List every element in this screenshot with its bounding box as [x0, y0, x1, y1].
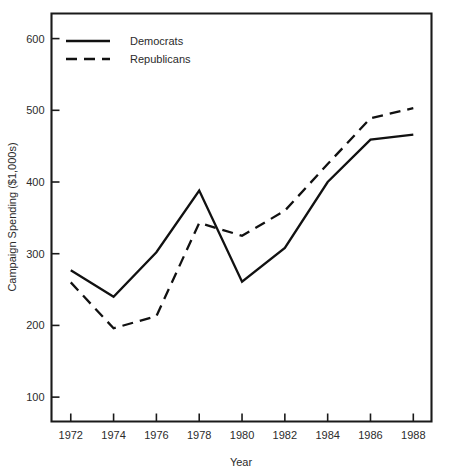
y-tick-label: 100: [26, 391, 44, 403]
y-axis-title: Campaign Spending ($1,000s): [6, 142, 18, 291]
x-tick-label: 1974: [101, 429, 125, 441]
plot-frame: [52, 14, 432, 422]
y-axis-ticks: 600500400300200100: [26, 33, 59, 404]
series-line-republicans: [71, 108, 414, 328]
x-axis-ticks: 197219741976197819801982198419861988: [59, 414, 426, 441]
x-axis-title: Year: [230, 456, 253, 468]
chart-legend: DemocratsRepublicans: [66, 35, 191, 65]
y-tick-label: 300: [26, 248, 44, 260]
chart-container: 600500400300200100 197219741976197819801…: [0, 0, 452, 475]
series-line-democrats: [71, 135, 414, 297]
y-tick-label: 200: [26, 319, 44, 331]
x-tick-label: 1982: [273, 429, 297, 441]
data-series-group: [71, 108, 414, 328]
x-tick-label: 1986: [358, 429, 382, 441]
y-tick-label: 400: [26, 176, 44, 188]
legend-label-republicans: Republicans: [130, 53, 191, 65]
x-tick-label: 1980: [230, 429, 254, 441]
x-tick-label: 1976: [144, 429, 168, 441]
y-tick-label: 600: [26, 33, 44, 45]
legend-label-democrats: Democrats: [130, 35, 184, 47]
line-chart: 600500400300200100 197219741976197819801…: [0, 0, 452, 475]
x-tick-label: 1984: [315, 429, 339, 441]
x-tick-label: 1988: [401, 429, 425, 441]
x-tick-label: 1972: [59, 429, 83, 441]
x-tick-label: 1978: [187, 429, 211, 441]
y-tick-label: 500: [26, 104, 44, 116]
